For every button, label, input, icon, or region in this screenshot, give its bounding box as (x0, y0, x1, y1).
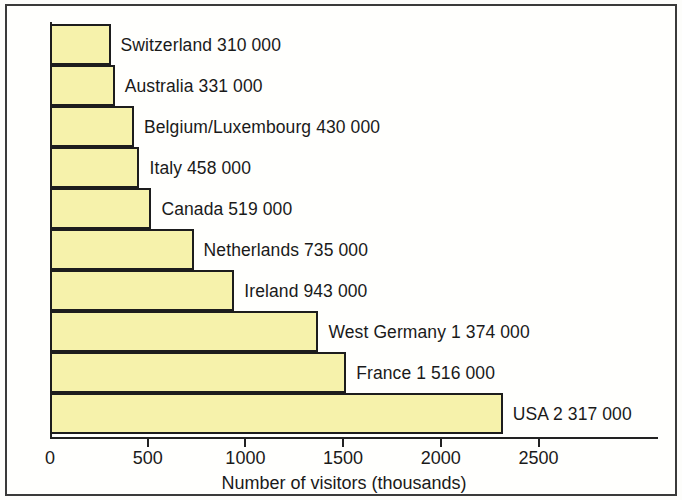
bar-row: Switzerland 310 000 (50, 24, 660, 65)
bar-row: Netherlands 735 000 (50, 229, 660, 270)
bar-label: USA 2 317 000 (513, 403, 632, 424)
x-axis-title: Number of visitors (thousands) (0, 473, 682, 494)
bar-row: USA 2 317 000 (50, 393, 660, 434)
bar-rect (50, 393, 503, 434)
x-tick-mark (538, 439, 540, 447)
plot-area: Switzerland 310 000Australia 331 000Belg… (50, 24, 660, 439)
x-tick-mark (342, 439, 344, 447)
x-tick-label: 2500 (518, 448, 558, 469)
x-tick-label: 1000 (225, 448, 265, 469)
bar-rect (50, 311, 318, 352)
bar-label: Belgium/Luxembourg 430 000 (144, 116, 380, 137)
bar-chart-figure: Country of origin Switzerland 310 000Aus… (0, 0, 682, 500)
bar-row: Australia 331 000 (50, 65, 660, 106)
bar-label: Ireland 943 000 (244, 280, 367, 301)
bar-label: Canada 519 000 (161, 198, 292, 219)
bar-row: France 1 516 000 (50, 352, 660, 393)
x-axis-title-text: Number of visitors (thousands) (221, 473, 466, 494)
bar-row: Belgium/Luxembourg 430 000 (50, 106, 660, 147)
x-tick-mark (244, 439, 246, 447)
x-tick-mark (147, 439, 149, 447)
bar-row: Italy 458 000 (50, 147, 660, 188)
bar-row: West Germany 1 374 000 (50, 311, 660, 352)
bar-rect (50, 270, 234, 311)
bar-rect (50, 106, 134, 147)
x-tick-label: 2000 (421, 448, 461, 469)
bar-label: Switzerland 310 000 (121, 34, 281, 55)
bar-label: Netherlands 735 000 (204, 239, 368, 260)
bar-rect (50, 229, 194, 270)
x-tick-label: 1500 (323, 448, 363, 469)
bar-label: West Germany 1 374 000 (328, 321, 529, 342)
bar-label: France 1 516 000 (356, 362, 495, 383)
x-tick-label: 500 (133, 448, 163, 469)
bar-rect (50, 147, 139, 188)
x-tick-label: 0 (45, 448, 55, 469)
bar-row: Ireland 943 000 (50, 270, 660, 311)
bar-label: Australia 331 000 (125, 75, 263, 96)
bar-rect (50, 65, 115, 106)
bar-label: Italy 458 000 (149, 157, 251, 178)
x-tick-mark (440, 439, 442, 447)
bar-rect (50, 352, 346, 393)
bar-rect (50, 24, 111, 65)
bar-row: Canada 519 000 (50, 188, 660, 229)
bar-rect (50, 188, 151, 229)
